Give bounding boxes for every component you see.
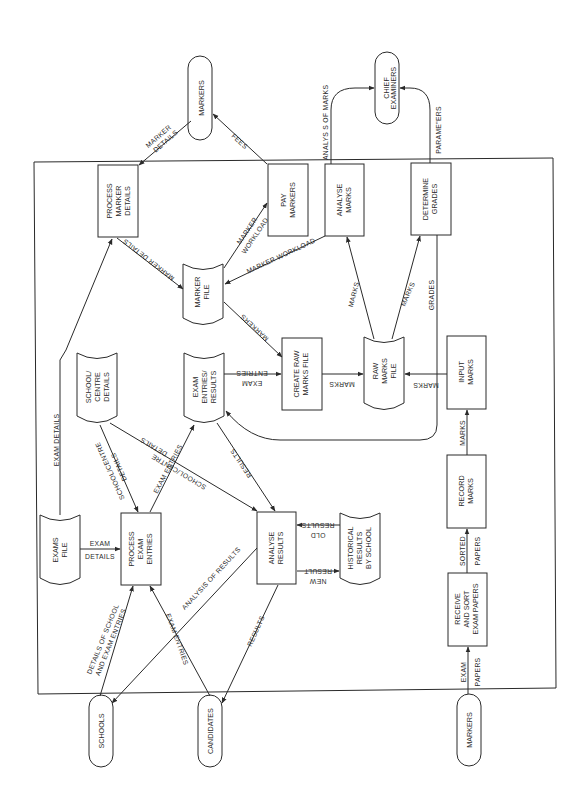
svg-text:MARKS: MARKS: [329, 381, 355, 388]
process-pay-markers: PAY MARKERS: [268, 164, 308, 236]
process-analyse-marks: ANALYSE MARKS: [325, 164, 364, 236]
svg-text:MARKERS: MARKERS: [465, 712, 474, 748]
svg-text:MARKS: MARKS: [380, 358, 389, 384]
svg-text:RESULTS: RESULTS: [276, 531, 285, 564]
svg-text:EXAM: EXAM: [460, 662, 467, 683]
svg-text:FILE: FILE: [60, 542, 69, 557]
svg-text:MARKER DETAILS: MARKER DETAILS: [121, 238, 175, 282]
svg-text:HISTORICAL: HISTORICAL: [346, 526, 355, 569]
svg-text:DETERMINE: DETERMINE: [421, 178, 430, 221]
entity-candidates: CANDIDATES: [198, 695, 222, 767]
svg-text:EXAM: EXAM: [191, 377, 200, 397]
svg-text:ANALYSIS OF RESULTS: ANALYSIS OF RESULTS: [180, 546, 241, 611]
svg-text:PROCESS: PROCESS: [105, 183, 114, 218]
svg-text:CREATE RAW: CREATE RAW: [292, 350, 301, 397]
store-raw-marks-file: RAW MARKS FILE: [364, 337, 404, 410]
svg-text:BY SCHOOL: BY SCHOOL: [364, 527, 373, 569]
store-exams-file: EXAMS FILE: [40, 515, 80, 585]
svg-text:GRADES: GRADES: [430, 184, 439, 215]
svg-text:EXAMS: EXAMS: [51, 537, 60, 562]
store-exam-entries-results: EXAM ENTRIES/ RESULTS: [184, 353, 224, 423]
svg-text:DETAILS: DETAILS: [123, 186, 132, 216]
svg-text:ANALYSE: ANALYSE: [267, 531, 276, 564]
svg-text:EXAM PAPERS: EXAM PAPERS: [471, 583, 480, 634]
svg-text:MARKERS: MARKERS: [197, 80, 206, 116]
svg-text:EXAM DETAILS: EXAM DETAILS: [53, 414, 60, 467]
svg-text:MARKS FILE: MARKS FILE: [301, 352, 310, 395]
svg-text:RESULTS: RESULTS: [301, 522, 334, 529]
svg-text:RESULTS: RESULTS: [209, 370, 218, 403]
svg-text:CENTRE: CENTRE: [93, 372, 102, 402]
svg-text:NEW: NEW: [309, 578, 326, 585]
entity-chief-examiners: CHIEF EXAMINERS: [375, 52, 399, 124]
svg-text:EXAM: EXAM: [90, 540, 111, 547]
svg-text:MARKS: MARKS: [459, 420, 466, 446]
svg-text:MARKS: MARKS: [399, 281, 416, 308]
svg-text:CANDIDATES: CANDIDATES: [206, 708, 215, 754]
entity-markers-bottom: MARKERS: [457, 694, 481, 766]
svg-text:ENTRIES: ENTRIES: [145, 533, 154, 564]
process-analyse-results: ANALYSE RESULTS: [257, 512, 296, 584]
process-exam-entries: PROCESS EXAM ENTRIES: [121, 513, 161, 585]
svg-text:PROCESS: PROCESS: [127, 531, 136, 566]
process-determine-grades: DETERMINE GRADES: [411, 163, 451, 235]
svg-text:MARKERS: MARKERS: [239, 313, 270, 343]
svg-text:MARKER: MARKER: [114, 186, 123, 217]
svg-text:RESULTS: RESULTS: [246, 614, 266, 647]
svg-text:EXAMINERS: EXAMINERS: [389, 67, 398, 110]
store-school-centre-details: SCHOOL/ CENTRE DETAILS: [77, 353, 117, 423]
svg-text:OLD: OLD: [311, 532, 326, 539]
svg-text:MARKS: MARKS: [347, 281, 360, 308]
process-record-marks: RECORD MARKS: [447, 455, 486, 528]
process-marker-details: PROCESS MARKER DETAILS: [98, 165, 138, 237]
svg-text:MARKER: MARKER: [193, 277, 202, 308]
svg-text:FEES: FEES: [230, 132, 249, 150]
svg-text:RESULT: RESULT: [304, 568, 332, 575]
data-flow-diagram: MARKERS CHIEF EXAMINERS SCHOOLS CANDIDAT…: [0, 0, 578, 802]
svg-text:INPUT: INPUT: [457, 361, 466, 383]
entity-schools: SCHOOLS: [89, 695, 113, 767]
svg-text:ANALYSE: ANALYSE: [335, 183, 344, 216]
entity-markers-top: MARKERS: [188, 56, 212, 140]
svg-text:MARKS: MARKS: [466, 359, 475, 385]
svg-text:RAW: RAW: [371, 363, 380, 380]
svg-text:PAY: PAY: [279, 193, 288, 207]
svg-text:MARKERS: MARKERS: [288, 182, 297, 218]
svg-text:PAPERS: PAPERS: [474, 536, 481, 565]
svg-text:RESULTS: RESULTS: [229, 448, 253, 479]
svg-text:RECORD: RECORD: [457, 475, 466, 506]
svg-text:RECEIVE: RECEIVE: [453, 593, 462, 625]
process-input-marks: INPUT MARKS: [447, 336, 486, 409]
svg-text:RESULTS: RESULTS: [355, 531, 364, 564]
store-marker-file: MARKER FILE: [183, 264, 223, 325]
svg-text:MARKS: MARKS: [413, 382, 439, 389]
svg-text:SCHOOL/: SCHOOL/: [84, 371, 93, 403]
svg-text:AND SORT: AND SORT: [462, 590, 471, 628]
svg-text:MARKS: MARKS: [466, 478, 475, 504]
svg-text:FILE: FILE: [389, 363, 398, 378]
svg-text:MARKER WORKLOAD: MARKER WORKLOAD: [245, 237, 316, 275]
svg-text:SCHOOLS: SCHOOLS: [97, 713, 106, 748]
svg-text:EXAM: EXAM: [136, 539, 145, 559]
svg-text:ANALYS S OF MARKS: ANALYS S OF MARKS: [322, 85, 329, 160]
svg-text:PAPERS: PAPERS: [474, 657, 481, 686]
svg-text:GRADES: GRADES: [428, 280, 435, 311]
svg-text:DETAILS: DETAILS: [85, 553, 115, 560]
svg-text:DETAILS: DETAILS: [102, 372, 111, 402]
svg-text:ENTRIES/: ENTRIES/: [200, 370, 209, 403]
svg-text:PARAME"ERS: PARAME"ERS: [435, 106, 442, 154]
svg-text:EXAM ENTRIES: EXAM ENTRIES: [165, 612, 190, 665]
store-historical-results: HISTORICAL RESULTS BY SCHOOL: [340, 513, 380, 585]
svg-text:MARKS: MARKS: [344, 187, 353, 213]
svg-text:EXAM: EXAM: [242, 380, 263, 387]
process-receive-sort-papers: RECEIVE AND SORT EXAM PAPERS: [448, 573, 487, 646]
svg-text:FILE: FILE: [202, 284, 211, 299]
process-create-raw-marks-file: CREATE RAW MARKS FILE: [282, 338, 322, 410]
svg-text:ENTRIES: ENTRIES: [236, 370, 268, 377]
svg-text:SORTED: SORTED: [459, 536, 466, 566]
